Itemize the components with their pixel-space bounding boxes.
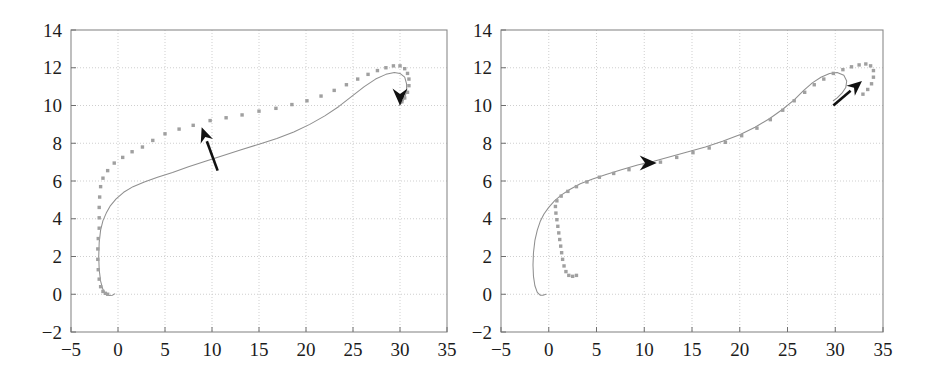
data-point xyxy=(130,150,133,153)
data-point xyxy=(707,146,710,149)
x-axis-tick-labels: −505101520253035 xyxy=(61,339,457,360)
data-point xyxy=(627,168,630,171)
data-point xyxy=(557,231,560,234)
y-tick-label: 10 xyxy=(43,95,62,116)
data-point xyxy=(392,64,395,67)
data-point xyxy=(98,226,101,229)
data-point xyxy=(850,65,853,68)
data-point xyxy=(861,92,864,95)
data-point xyxy=(869,64,872,67)
x-tick-label: 0 xyxy=(113,339,123,360)
series-dots xyxy=(554,62,875,278)
x-tick-label: 35 xyxy=(438,339,457,360)
data-point xyxy=(345,83,348,86)
data-point xyxy=(208,119,211,122)
data-point xyxy=(98,195,101,198)
y-tick-label: 12 xyxy=(43,57,62,78)
figure-container: −505101520253035−202468101214 −505101520… xyxy=(0,0,930,385)
y-tick-label: 14 xyxy=(473,20,493,41)
data-point xyxy=(561,258,564,261)
data-point xyxy=(98,206,101,209)
data-point xyxy=(257,109,260,112)
data-point xyxy=(406,72,409,75)
data-point xyxy=(555,218,558,221)
x-tick-label: 25 xyxy=(778,339,797,360)
x-tick-label: 15 xyxy=(250,339,269,360)
data-point xyxy=(384,66,387,69)
data-point xyxy=(567,274,570,277)
data-point xyxy=(675,156,678,159)
data-point xyxy=(98,216,101,219)
y-tick-label: 12 xyxy=(473,57,492,78)
data-point xyxy=(691,151,694,154)
data-point xyxy=(305,99,308,102)
data-point xyxy=(822,77,825,80)
data-point xyxy=(101,290,104,293)
series-line xyxy=(99,72,407,295)
data-point xyxy=(97,237,100,240)
y-tick-label: 4 xyxy=(53,208,63,229)
x-tick-label: 30 xyxy=(391,339,410,360)
x-tick-label: −5 xyxy=(491,339,511,360)
data-point xyxy=(575,274,578,277)
y-tick-label: 10 xyxy=(473,95,492,116)
data-point xyxy=(659,160,662,163)
direction-arrowhead-middle xyxy=(640,156,657,171)
data-point xyxy=(575,185,578,188)
y-tick-label: 2 xyxy=(483,246,493,267)
data-point xyxy=(376,69,379,72)
data-point xyxy=(106,169,109,172)
data-point xyxy=(864,62,867,65)
data-point xyxy=(319,94,322,97)
y-axis-tick-labels: −202468101214 xyxy=(42,20,63,343)
data-point xyxy=(407,77,410,80)
y-tick-label: 6 xyxy=(483,171,493,192)
y-tick-label: 4 xyxy=(483,208,493,229)
x-tick-label: 20 xyxy=(297,339,316,360)
data-point xyxy=(99,185,102,188)
data-point xyxy=(803,91,806,94)
x-tick-label: 25 xyxy=(344,339,363,360)
data-point xyxy=(562,264,565,267)
data-point xyxy=(566,190,569,193)
data-point xyxy=(585,180,588,183)
data-point xyxy=(564,270,567,273)
data-point xyxy=(398,64,401,67)
right-plot-svg: −505101520253035−202468101214 xyxy=(465,0,930,385)
data-point xyxy=(101,176,104,179)
y-tick-label: −2 xyxy=(472,322,492,343)
data-point xyxy=(598,176,601,179)
data-point xyxy=(224,116,227,119)
data-point xyxy=(403,67,406,70)
left-plot-panel: −505101520253035−202468101214 xyxy=(0,0,465,385)
data-point xyxy=(558,238,561,241)
series-line xyxy=(533,72,847,295)
data-point xyxy=(97,268,100,271)
data-point xyxy=(571,275,574,278)
data-point xyxy=(841,68,844,71)
x-tick-label: −5 xyxy=(61,339,81,360)
gridlines xyxy=(71,30,447,332)
y-tick-label: 0 xyxy=(483,284,493,305)
x-tick-label: 20 xyxy=(730,339,749,360)
data-point xyxy=(333,89,336,92)
data-point xyxy=(612,172,615,175)
data-point xyxy=(274,107,277,110)
data-point xyxy=(781,109,784,112)
data-point xyxy=(554,205,557,208)
data-point xyxy=(96,258,99,261)
data-point xyxy=(832,72,835,75)
y-tick-label: −2 xyxy=(42,322,62,343)
x-tick-label: 15 xyxy=(683,339,702,360)
data-point xyxy=(872,75,875,78)
data-point xyxy=(755,126,758,129)
x-tick-label: 5 xyxy=(592,339,602,360)
data-point xyxy=(554,211,557,214)
y-tick-label: 8 xyxy=(53,133,63,154)
data-point xyxy=(366,73,369,76)
data-point xyxy=(141,145,144,148)
data-point xyxy=(560,251,563,254)
data-point xyxy=(98,277,101,280)
data-point xyxy=(121,156,124,159)
data-point xyxy=(724,141,727,144)
